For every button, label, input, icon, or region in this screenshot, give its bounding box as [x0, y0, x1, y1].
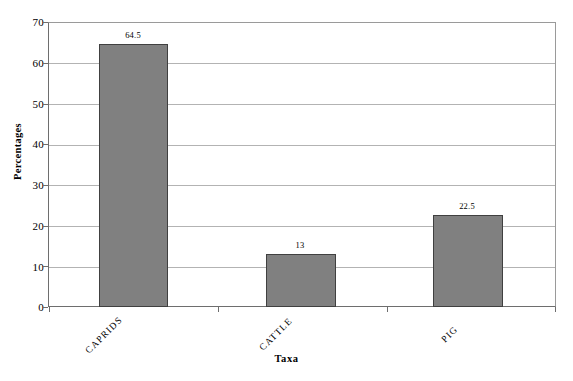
- y-tick-label-70: 70: [4, 17, 44, 28]
- x-tick-mark-2: [387, 307, 388, 312]
- y-tick-label-0: 0: [4, 302, 44, 313]
- bar-value-pig: 22.5: [417, 202, 517, 211]
- y-axis-title: Percentages: [12, 107, 23, 197]
- x-category-label-pig: PIG: [439, 324, 459, 344]
- bar-value-cattle: 13: [250, 241, 350, 250]
- x-category-label-caprids: CAPRIDS: [83, 315, 124, 356]
- y-tick-label-30: 30: [4, 180, 44, 191]
- y-tick-label-60: 60: [4, 58, 44, 69]
- bar-pig: [433, 215, 503, 307]
- x-tick-mark-0: [49, 307, 50, 312]
- bar-cattle: [266, 254, 336, 307]
- plot-area: [48, 22, 556, 307]
- bar-value-caprids: 64.5: [83, 31, 183, 40]
- x-tick-mark-3: [555, 307, 556, 312]
- y-tick-label-20: 20: [4, 221, 44, 232]
- x-tick-mark-1: [218, 307, 219, 312]
- bar-chart: 70 60 50 40 30 20 10 0 Percentages 64.5 …: [0, 0, 573, 381]
- y-tick-mark-0: [43, 307, 48, 308]
- y-tick-label-40: 40: [4, 139, 44, 150]
- bar-caprids: [99, 44, 168, 307]
- x-category-label-cattle: CATTLE: [257, 316, 294, 353]
- y-tick-label-10: 10: [4, 262, 44, 273]
- x-axis-title: Taxa: [0, 353, 573, 364]
- y-tick-label-50: 50: [4, 99, 44, 110]
